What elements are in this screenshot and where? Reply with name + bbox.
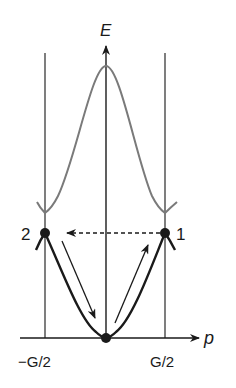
- point-1-label: 1: [176, 225, 185, 244]
- energy-axis-label: E: [100, 21, 112, 40]
- point-2-marker: [40, 228, 50, 238]
- left-boundary-label: −G/2: [18, 353, 51, 370]
- band-structure-diagram: E p 2 1 −G/2 G/2: [0, 0, 236, 388]
- right-boundary-label: G/2: [150, 353, 174, 370]
- origin-point-marker: [101, 333, 111, 343]
- momentum-axis-label: p: [203, 328, 214, 348]
- point-1-marker: [160, 228, 170, 238]
- point-2-label: 2: [21, 225, 30, 244]
- upper-band-curve: [37, 66, 177, 213]
